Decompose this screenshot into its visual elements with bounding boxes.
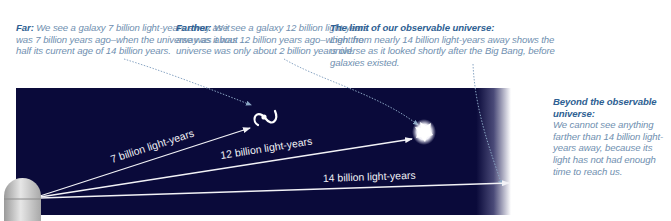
observatory-dome-icon — [4, 178, 41, 221]
caption-beyond-body: We cannot see anything farther than 14 b… — [553, 119, 663, 176]
caption-observable-limit: The limit of our observable universe:Lig… — [330, 22, 560, 68]
caption-beyond-lead: Beyond the observable universe: — [553, 96, 671, 119]
young-galaxy-blob-icon — [412, 119, 436, 145]
caption-far-lead: Far: — [16, 22, 34, 33]
caption-farther-lead: Farther: — [176, 22, 211, 33]
caption-limit-lead: The limit of our observable universe: — [330, 22, 560, 34]
caption-beyond-observable: Beyond the observable universe:We cannot… — [553, 96, 671, 177]
caption-limit-body: Light from nearly 14 billion light-years… — [330, 34, 555, 68]
